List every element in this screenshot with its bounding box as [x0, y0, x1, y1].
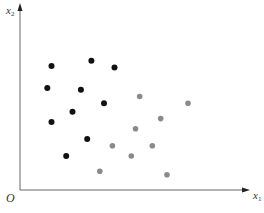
data-point-class-gray — [129, 153, 135, 159]
data-points — [44, 58, 191, 178]
data-point-class-black — [88, 58, 94, 64]
data-point-class-black — [101, 100, 107, 106]
data-point-class-black — [70, 109, 76, 115]
x-axis-label: x1 — [253, 190, 261, 203]
x-axis-label-sub: 1 — [258, 195, 262, 203]
y-axis-label: x2 — [6, 5, 14, 18]
data-point-class-black — [49, 63, 55, 69]
y-axis-arrow-icon — [18, 3, 23, 11]
data-point-class-black — [63, 153, 69, 159]
origin-label: O — [6, 192, 15, 204]
data-point-class-gray — [158, 116, 164, 122]
data-point-class-gray — [137, 94, 143, 100]
data-point-class-gray — [150, 143, 156, 149]
y-axis-label-sub: 2 — [11, 10, 15, 18]
data-point-class-black — [112, 65, 118, 71]
data-point-class-gray — [110, 143, 116, 149]
x-axis-arrow-icon — [242, 188, 250, 193]
data-point-class-black — [44, 85, 50, 91]
data-point-class-gray — [97, 169, 103, 175]
data-point-class-black — [84, 136, 90, 142]
origin-label-text: O — [6, 191, 15, 205]
data-point-class-gray — [164, 172, 170, 178]
data-point-class-black — [78, 87, 84, 93]
data-point-class-gray — [133, 126, 139, 132]
data-point-class-gray — [185, 101, 191, 107]
scatter-plot — [0, 0, 264, 213]
data-point-class-black — [49, 119, 55, 125]
